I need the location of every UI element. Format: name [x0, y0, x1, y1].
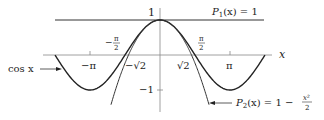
neg-pi-half-num: π	[114, 35, 119, 43]
sqrt2-label: √2	[177, 60, 190, 71]
taylor-approximation-plot: x 1 −1 −π π − π 2 π 2 −√2 √2 cos x P1(x)…	[0, 0, 324, 120]
cos-arrow-head	[56, 67, 62, 71]
neg-sqrt2-label: −√2	[125, 60, 146, 71]
neg-pi-label: −π	[81, 60, 96, 71]
p2-frac-den: 2	[305, 104, 309, 112]
p2-arrow-head	[209, 101, 215, 105]
p1-label: P1(x) = 1	[211, 6, 258, 19]
pi-label: π	[226, 60, 233, 71]
cos-label: cos x	[8, 63, 34, 74]
x-axis-label: x	[279, 48, 286, 61]
y-one-label: 1	[148, 6, 155, 19]
pi-half-den: 2	[199, 44, 203, 52]
neg-pi-half-sign: −	[105, 37, 113, 47]
neg-pi-half-den: 2	[114, 44, 118, 52]
pi-half-num: π	[199, 35, 204, 43]
p2-frac-num: x²	[303, 94, 310, 102]
y-neg-one-label: −1	[139, 84, 154, 95]
p2-label: P2(x) = 1 −	[235, 97, 293, 110]
